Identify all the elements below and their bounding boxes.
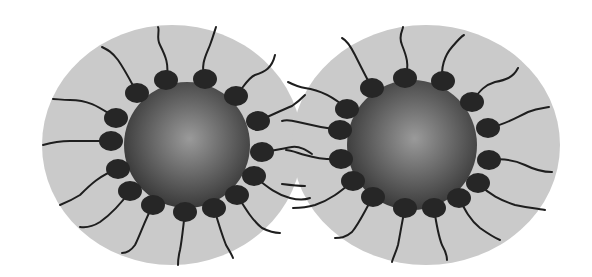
surfactant-head [173, 202, 197, 222]
surfactant-head [341, 171, 365, 191]
surfactant-head [242, 166, 266, 186]
surfactant-head [329, 149, 353, 169]
surfactant-head [335, 99, 359, 119]
surfactant-head [360, 78, 384, 98]
surfactant-head [118, 181, 142, 201]
surfactant-head [225, 185, 249, 205]
surfactant-head [106, 159, 130, 179]
surfactant-head [154, 70, 178, 90]
surfactant-head [477, 150, 501, 170]
surfactant-head [422, 198, 446, 218]
micelle-diagram [0, 0, 592, 277]
surfactant-head [460, 92, 484, 112]
surfactant-head [125, 83, 149, 103]
surfactant-head [393, 68, 417, 88]
surfactant-head [476, 118, 500, 138]
surfactant-head [141, 195, 165, 215]
surfactant-head [361, 187, 385, 207]
surfactant-head [250, 142, 274, 162]
surfactant-head [202, 198, 226, 218]
surfactant-head [328, 120, 352, 140]
surfactant-head [466, 173, 490, 193]
surfactant-head [246, 111, 270, 131]
surfactant-head [193, 69, 217, 89]
surfactant-head [104, 108, 128, 128]
surfactant-head [224, 86, 248, 106]
surfactant-head [431, 71, 455, 91]
surfactant-head [447, 188, 471, 208]
surfactant-head [99, 131, 123, 151]
surfactant-head [393, 198, 417, 218]
